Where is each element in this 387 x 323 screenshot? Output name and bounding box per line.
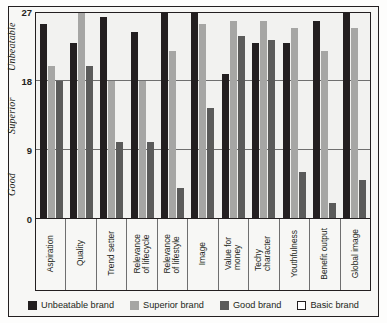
bar (291, 28, 298, 218)
legend-label: Unbeatable brand (41, 300, 114, 310)
x-axis-label: Quality (76, 240, 85, 266)
x-axis-label: Youthfulness (290, 230, 299, 278)
legend-swatch-icon (297, 301, 306, 310)
x-axis-label-cell: Image (188, 219, 218, 290)
x-axis-label: Benefit output (320, 228, 329, 280)
y-zone-superior: Superior (4, 81, 18, 150)
bar (116, 142, 123, 218)
chart-figure: 091827 GoodSuperiorUnbeatable Aspiration… (0, 0, 387, 323)
x-axis-label-cell: Value for money (219, 219, 249, 290)
bar-group (66, 13, 96, 218)
x-axis-label: Relevance of lifestyle (163, 234, 182, 274)
bar-group (127, 13, 157, 218)
bar-group (188, 13, 218, 218)
y-zone-unbeatable: Unbeatable (4, 12, 18, 81)
x-axis-label: Trend setter (107, 231, 116, 276)
x-axis-label-cell: Relevance of lifestyle (158, 219, 188, 290)
legend-label: Basic brand (310, 300, 359, 310)
bar (108, 81, 115, 218)
bar-group (340, 13, 370, 218)
x-axis-label: Relevance of lifecycle (133, 234, 152, 274)
bar (131, 32, 138, 218)
x-axis-label: Techy character (254, 236, 273, 271)
bar-group (218, 13, 248, 218)
y-tick-label: 18 (21, 75, 32, 86)
plot-area (35, 12, 371, 219)
bar (56, 81, 63, 218)
bar-group (97, 13, 127, 218)
bar (199, 24, 206, 218)
legend-item[interactable]: Good brand (220, 300, 282, 310)
y-tick-label: 0 (27, 214, 32, 225)
bar-group (309, 13, 339, 218)
bar (207, 108, 214, 218)
bar (299, 172, 306, 218)
x-axis-label-cell: Aspiration (36, 219, 66, 290)
bar-group (279, 13, 309, 218)
bar (359, 180, 366, 218)
bar (343, 13, 350, 218)
x-axis-label: Global image (351, 229, 360, 278)
legend-swatch-icon (28, 301, 37, 310)
bar (177, 188, 184, 218)
legend-swatch-icon (130, 301, 139, 310)
x-axis-label-cell: Global image (341, 219, 370, 290)
chart-legend: Unbeatable brandSuperior brandGood brand… (8, 293, 379, 317)
legend-item[interactable]: Basic brand (297, 300, 359, 310)
legend-item[interactable]: Superior brand (130, 300, 204, 310)
x-axis-label-cell: Quality (66, 219, 96, 290)
x-axis-label-cell: Trend setter (97, 219, 127, 290)
bar (222, 74, 229, 218)
legend-item[interactable]: Unbeatable brand (28, 300, 114, 310)
x-axis-label-cell: Youthfulness (280, 219, 310, 290)
bar (313, 21, 320, 218)
bar (78, 13, 85, 218)
x-axis-label: Aspiration (46, 235, 55, 272)
bar (70, 43, 77, 218)
bar (321, 51, 328, 218)
bar (86, 66, 93, 218)
bar (169, 51, 176, 218)
bar-group (157, 13, 187, 218)
bar (260, 21, 267, 218)
bar (268, 40, 275, 218)
y-tick-label: 27 (21, 7, 32, 18)
x-axis-label-cell: Techy character (249, 219, 279, 290)
bar (48, 66, 55, 218)
bar (283, 43, 290, 218)
x-axis-label: Value for money (224, 237, 243, 270)
bar-groups (36, 13, 370, 218)
bar (351, 28, 358, 218)
x-axis-label-cell: Relevance of lifecycle (127, 219, 157, 290)
y-tick-label: 9 (27, 144, 32, 155)
bar-group (249, 13, 279, 218)
x-axis-labels: AspirationQualityTrend setterRelevance o… (35, 219, 371, 291)
legend-label: Superior brand (143, 300, 204, 310)
bar (252, 43, 259, 218)
x-axis-label-cell: Benefit output (310, 219, 340, 290)
y-zone-good: Good (4, 150, 18, 219)
bar (100, 17, 107, 218)
bar (161, 13, 168, 218)
bar (191, 13, 198, 218)
legend-swatch-icon (220, 301, 229, 310)
bar (329, 203, 336, 218)
bar (40, 24, 47, 218)
bar (139, 81, 146, 218)
bar (238, 36, 245, 218)
bar (147, 142, 154, 218)
x-axis-label: Image (198, 242, 207, 265)
bar (230, 21, 237, 218)
legend-label: Good brand (233, 300, 282, 310)
bar-group (36, 13, 66, 218)
plot-wrapper: 091827 GoodSuperiorUnbeatable (35, 12, 371, 219)
